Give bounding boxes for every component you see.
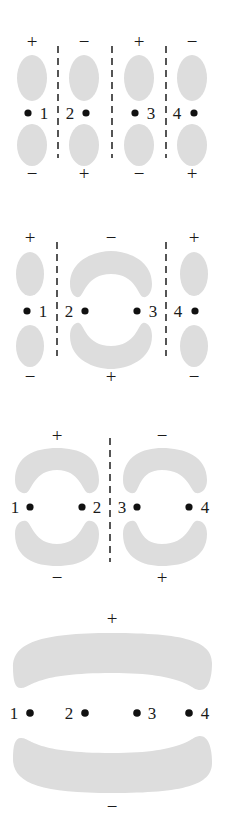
atom-number-1: 1 [39, 302, 48, 321]
atom-dot-3 [131, 109, 138, 116]
orbital-lobe-top-atom4 [177, 55, 207, 101]
sign-bottom-merged-12: − [52, 567, 63, 588]
sign-top-delocalized: + [107, 608, 118, 629]
butadiene-mo-figure: + − + − 1 2 3 4 [0, 0, 225, 821]
orbital-lobe-top-atom1 [17, 55, 47, 101]
orbital-lobe-bottom-atom2 [69, 124, 99, 166]
orbital-lobe-top-atom2 [69, 55, 99, 101]
atom-dot-1 [24, 109, 31, 116]
orbital-lobe-top-merged-12 [15, 448, 99, 493]
orbital-lobe-top-atom1 [16, 252, 44, 296]
atom-number-4: 4 [201, 704, 210, 723]
atom-number-1: 1 [11, 498, 20, 517]
orbital-lobe-bottom-atom4 [177, 124, 207, 166]
atom-dot-2 [81, 307, 88, 314]
orbital-lobe-bottom-atom1 [16, 325, 44, 367]
sign-top-atom4: + [189, 227, 200, 248]
mo-panel-psi4: + − + − 1 2 3 4 [0, 0, 225, 185]
sign-top-merged-23: − [106, 227, 117, 248]
sign-bottom-merged-23: + [106, 366, 117, 387]
sign-bottom-atom1: − [25, 366, 36, 387]
orbital-lobe-bottom-merged-12 [15, 521, 99, 566]
atom-number-2: 2 [65, 704, 74, 723]
sign-bottom-delocalized: − [107, 796, 118, 817]
orbital-lobe-bottom-atom3 [124, 124, 154, 166]
atom-number-4: 4 [173, 104, 182, 123]
sign-top-atom3: + [134, 31, 145, 52]
orbital-lobe-bottom-atom4 [180, 325, 208, 367]
orbital-lobe-bottom-merged-23 [70, 323, 152, 369]
sign-bottom-atom4: − [189, 366, 200, 387]
atom-dot-3 [133, 709, 141, 717]
orbital-lobe-top-merged-23 [70, 251, 152, 297]
orbital-lobe-bottom-atom1 [17, 124, 47, 166]
atom-dot-2 [78, 503, 85, 510]
sign-bottom-atom4: + [187, 163, 198, 184]
atom-dot-1 [26, 709, 34, 717]
atom-dot-2 [82, 109, 89, 116]
orbital-lobe-top-atom4 [180, 252, 208, 296]
atom-number-2: 2 [66, 104, 75, 123]
sign-top-merged-34: − [157, 425, 168, 446]
atom-number-2: 2 [65, 302, 74, 321]
atom-dot-4 [191, 307, 198, 314]
atom-number-4: 4 [174, 302, 183, 321]
mo-panel-psi3: + − + 1 2 3 4 [0, 208, 225, 388]
orbital-lobe-bottom-merged-34 [123, 521, 207, 566]
atom-number-2: 2 [93, 498, 102, 517]
atom-number-3: 3 [148, 704, 157, 723]
sign-top-merged-12: + [52, 425, 63, 446]
sign-bottom-atom1: − [27, 163, 38, 184]
orbital-lobe-top-merged-34 [123, 448, 207, 493]
atom-dot-1 [26, 503, 33, 510]
sign-top-atom2: − [79, 31, 90, 52]
atom-dot-4 [185, 503, 192, 510]
atom-dot-1 [23, 307, 30, 314]
sign-top-atom1: + [25, 227, 36, 248]
orbital-lobe-top-delocalized [13, 633, 212, 690]
atom-dot-2 [81, 709, 89, 717]
atom-number-4: 4 [201, 498, 210, 517]
sign-top-atom4: − [187, 31, 198, 52]
atom-number-3: 3 [149, 302, 158, 321]
sign-top-atom1: + [27, 31, 38, 52]
atom-dot-4 [190, 109, 197, 116]
mo-panel-psi2: + − 1 2 3 4 − + [0, 404, 225, 589]
sign-bottom-atom2: + [79, 163, 90, 184]
sign-bottom-atom3: − [134, 163, 145, 184]
atom-number-3: 3 [147, 104, 156, 123]
atom-number-3: 3 [118, 498, 127, 517]
atom-dot-3 [133, 503, 140, 510]
sign-bottom-merged-34: + [157, 567, 168, 588]
atom-number-1: 1 [10, 704, 19, 723]
atom-dot-3 [133, 307, 140, 314]
atom-dot-4 [185, 709, 193, 717]
orbital-lobe-bottom-delocalized [13, 736, 212, 793]
atom-number-1: 1 [40, 104, 49, 123]
orbital-lobe-top-atom3 [124, 55, 154, 101]
mo-panel-psi1: + 1 2 3 4 − [0, 601, 225, 821]
